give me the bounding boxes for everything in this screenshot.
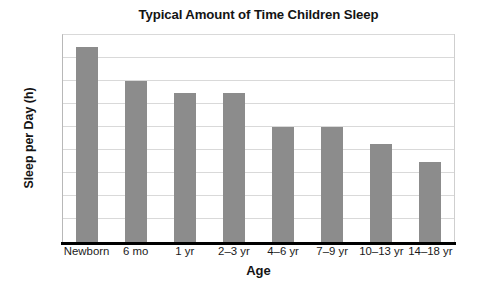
plot-area [62,34,455,242]
x-axis-title: Age [62,263,455,278]
x-tick-label: Newborn [62,245,111,257]
bar [321,127,343,242]
bar [223,93,245,243]
bars-layer [63,35,454,242]
bar [125,81,147,242]
x-tick-label: 4–6 yr [259,245,308,257]
x-axis-tick-labels: Newborn6 mo1 yr2–3 yr4–6 yr7–9 yr10–13 y… [62,245,455,257]
bar-slot [210,35,259,242]
x-tick-label: 7–9 yr [308,245,357,257]
bar [370,144,392,242]
bar-slot [405,35,454,242]
bar-slot [112,35,161,242]
y-axis-title: Sleep per Day (h) [22,58,36,218]
x-tick-label: 6 mo [111,245,160,257]
bar-slot [356,35,405,242]
x-tick-label: 10–13 yr [357,245,406,257]
bar-chart-figure: Typical Amount of Time Children Sleep Sl… [0,0,481,290]
bar-slot [307,35,356,242]
x-tick-label: 2–3 yr [209,245,258,257]
bar [174,93,196,243]
bar-slot [161,35,210,242]
x-tick-label: 14–18 yr [406,245,455,257]
bar [419,162,441,243]
bar [76,47,98,243]
x-tick-label: 1 yr [160,245,209,257]
bar-slot [259,35,308,242]
chart-title: Typical Amount of Time Children Sleep [62,7,455,22]
bar-slot [63,35,112,242]
bar [272,127,294,242]
